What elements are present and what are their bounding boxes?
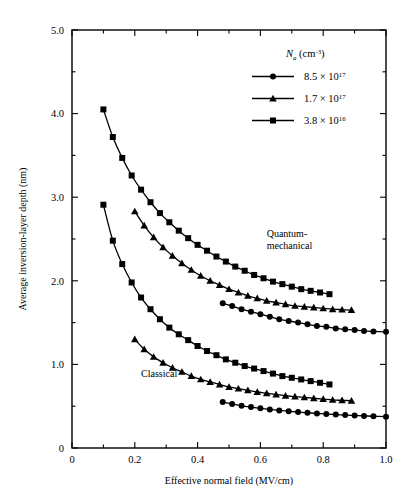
- data-point-triangle: [206, 277, 214, 284]
- x-tick-label: 0.8: [317, 454, 330, 465]
- data-point-circle: [257, 311, 263, 317]
- data-point-square: [166, 219, 172, 225]
- x-tick-label: 0.2: [128, 454, 141, 465]
- data-point-circle: [383, 414, 389, 420]
- data-point-circle: [352, 412, 358, 418]
- data-point-square: [251, 272, 257, 278]
- data-point-circle: [276, 407, 282, 413]
- data-point-square: [232, 360, 238, 366]
- data-point-square: [223, 356, 229, 362]
- data-point-square: [157, 210, 163, 216]
- data-point-circle: [314, 410, 320, 416]
- data-point-circle: [333, 325, 339, 331]
- data-point-square: [119, 155, 125, 161]
- data-point-circle: [239, 403, 245, 409]
- data-point-square: [176, 331, 182, 337]
- legend-label-2: 3.8 × 1016: [304, 115, 346, 126]
- x-tick-label: 0.6: [254, 454, 267, 465]
- data-point-square: [119, 261, 125, 267]
- legend-label-0: 8.5 × 1017: [304, 71, 346, 82]
- y-tick-label: 5.0: [51, 25, 64, 36]
- data-point-circle: [323, 411, 329, 417]
- data-point-square: [251, 366, 257, 372]
- data-point-circle: [220, 300, 226, 306]
- data-point-square: [204, 248, 210, 254]
- data-point-square: [185, 337, 191, 343]
- data-point-circle: [286, 318, 292, 324]
- data-point-square: [223, 259, 229, 265]
- data-point-circle: [361, 328, 367, 334]
- y-tick-label: 1.0: [51, 359, 64, 370]
- data-point-circle: [383, 329, 389, 335]
- data-point-circle: [295, 409, 301, 415]
- data-point-circle: [276, 316, 282, 322]
- data-point-square: [129, 279, 135, 285]
- data-point-circle: [305, 321, 311, 327]
- data-point-triangle: [178, 368, 186, 375]
- data-point-circle: [248, 404, 254, 410]
- data-point-square: [148, 199, 154, 205]
- data-point-square: [232, 264, 238, 270]
- data-point-square: [195, 343, 201, 349]
- data-point-square: [298, 286, 304, 292]
- data-point-circle: [286, 408, 292, 414]
- data-point-circle: [342, 412, 348, 418]
- data-point-circle: [342, 326, 348, 332]
- data-point-square: [270, 279, 276, 285]
- data-point-square: [326, 381, 332, 387]
- data-point-square: [279, 281, 285, 287]
- data-point-square: [204, 348, 210, 354]
- data-point-square: [129, 172, 135, 178]
- x-tick-label: 0: [69, 454, 74, 465]
- data-point-circle: [267, 406, 273, 412]
- data-point-square: [261, 368, 267, 374]
- data-point-circle: [239, 306, 245, 312]
- data-point-square: [100, 202, 106, 208]
- data-point-circle: [370, 328, 376, 334]
- x-tick-label: 1.0: [379, 454, 392, 465]
- data-point-square: [110, 134, 116, 140]
- legend-marker-circle: [270, 74, 276, 80]
- data-point-circle: [323, 324, 329, 330]
- data-point-circle: [370, 413, 376, 419]
- legend-label-1: 1.7 × 1017: [304, 93, 346, 104]
- legend-title: Na (cm-3): [285, 48, 325, 61]
- y-tick-label: 4.0: [51, 108, 64, 119]
- data-point-circle: [229, 303, 235, 309]
- data-point-square: [176, 228, 182, 234]
- data-point-square: [148, 306, 154, 312]
- data-point-square: [100, 106, 106, 112]
- data-point-circle: [333, 412, 339, 418]
- data-point-square: [195, 242, 201, 248]
- data-point-square: [279, 373, 285, 379]
- data-point-square: [289, 284, 295, 290]
- data-point-circle: [229, 401, 235, 407]
- classical-label: Classical: [141, 368, 177, 379]
- data-point-circle: [267, 314, 273, 320]
- data-point-circle: [295, 320, 301, 326]
- data-point-square: [242, 268, 248, 274]
- y-tick-label: 2.0: [51, 276, 64, 287]
- data-point-square: [261, 275, 267, 281]
- data-point-triangle: [197, 272, 205, 279]
- data-point-square: [138, 187, 144, 193]
- legend-marker-square: [270, 118, 276, 124]
- data-point-circle: [220, 399, 226, 405]
- data-point-square: [270, 371, 276, 377]
- series-line-quantum-mechanical-3.8e16: [103, 109, 329, 294]
- data-point-triangle: [216, 281, 224, 288]
- data-point-square: [213, 352, 219, 358]
- data-point-square: [185, 235, 191, 241]
- data-point-square: [308, 378, 314, 384]
- inversion-layer-depth-chart: 00.20.40.60.81.001.02.03.04.05.0Effectiv…: [0, 0, 409, 501]
- y-tick-label: 0: [59, 443, 64, 454]
- x-axis-title: Effective normal field (MV/cm): [165, 475, 293, 487]
- quantum-mechanical-label-line2: mechanical: [267, 240, 313, 251]
- data-point-square: [138, 295, 144, 301]
- data-point-triangle: [188, 266, 196, 273]
- y-tick-label: 3.0: [51, 192, 64, 203]
- y-axis-title: Average inversion-layer depth (nm): [17, 168, 29, 311]
- data-point-circle: [361, 413, 367, 419]
- data-point-square: [110, 238, 116, 244]
- data-point-circle: [352, 327, 358, 333]
